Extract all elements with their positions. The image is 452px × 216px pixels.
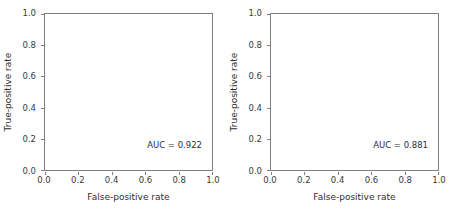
ytick-mark	[267, 108, 270, 109]
xtick-label: 0.2	[297, 176, 311, 185]
plot-area-right: AUC = 0.881	[270, 13, 439, 171]
ytick-mark	[41, 108, 44, 109]
xtick-label: 0.4	[105, 176, 119, 185]
ytick-label: 0.6	[22, 72, 36, 81]
auc-annotation-left: AUC = 0.922	[147, 140, 202, 150]
ytick-label: 0.8	[248, 40, 262, 49]
ytick-label: 0.4	[248, 104, 262, 113]
ytick-mark	[41, 139, 44, 140]
xtick-label: 0.6	[139, 176, 153, 185]
xtick-label: 0.8	[172, 176, 186, 185]
roc-panel-right: AUC = 0.881 0.0 0.2 0.4 0.6 0.8 1.0 0.0 …	[226, 0, 452, 216]
ytick-mark	[267, 139, 270, 140]
ytick-mark	[267, 76, 270, 77]
ytick-label: 0.4	[22, 104, 36, 113]
ytick-mark	[41, 45, 44, 46]
ytick-mark	[267, 45, 270, 46]
y-axis-title-text: True-positive rate	[3, 53, 13, 132]
ytick-label: 0.0	[248, 167, 262, 176]
ytick-mark	[41, 76, 44, 77]
xtick-label: 0.8	[398, 176, 412, 185]
xtick-label: 0.0	[37, 176, 51, 185]
x-axis-title: False-positive rate	[44, 192, 213, 202]
xtick-label: 0.2	[71, 176, 85, 185]
auc-annotation-right: AUC = 0.881	[373, 140, 428, 150]
ytick-mark	[267, 14, 270, 15]
ytick-mark	[41, 170, 44, 171]
y-axis-title-text: True-positive rate	[229, 53, 239, 132]
plot-area-left: AUC = 0.922	[44, 13, 213, 171]
ytick-label: 1.0	[22, 9, 36, 18]
ytick-mark	[41, 14, 44, 15]
ytick-label: 0.0	[22, 167, 36, 176]
y-axis-title: True-positive rate	[228, 13, 240, 171]
xtick-label: 0.0	[263, 176, 277, 185]
xtick-label: 0.6	[365, 176, 379, 185]
ytick-mark	[267, 170, 270, 171]
xtick-label: 0.4	[331, 176, 345, 185]
xtick-label: 1.0	[206, 176, 220, 185]
ytick-label: 1.0	[248, 9, 262, 18]
roc-panel-left: AUC = 0.922 0.0 0.2 0.4 0.6 0.8 1.0 0.0 …	[0, 0, 226, 216]
ytick-label: 0.2	[22, 135, 36, 144]
x-axis-title: False-positive rate	[270, 192, 439, 202]
y-axis-title: True-positive rate	[2, 13, 14, 171]
ytick-label: 0.8	[22, 40, 36, 49]
roc-figure: AUC = 0.922 0.0 0.2 0.4 0.6 0.8 1.0 0.0 …	[0, 0, 452, 216]
ytick-label: 0.2	[248, 135, 262, 144]
xtick-label: 1.0	[432, 176, 446, 185]
ytick-label: 0.6	[248, 72, 262, 81]
